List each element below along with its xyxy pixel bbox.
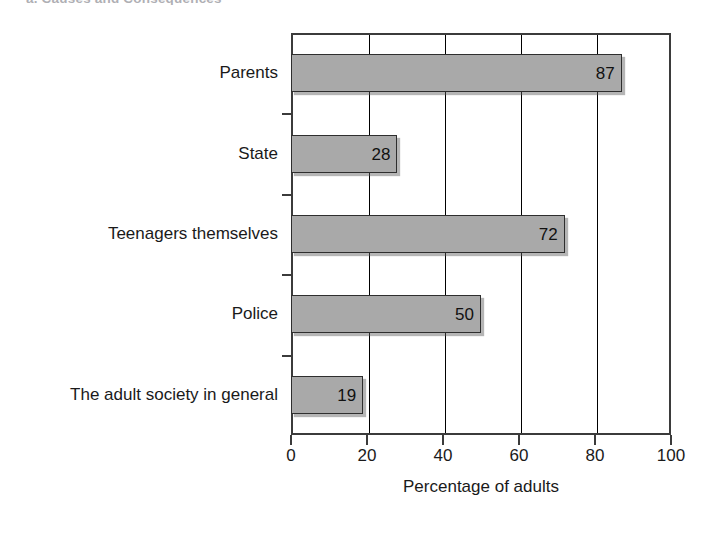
x-axis-title: Percentage of adults [291,477,671,497]
x-tick-label-100: 100 [641,446,701,466]
x-tick-0 [290,435,292,445]
bar-chart-figure: a. Causes and Consequences 020406080100 … [0,0,715,539]
x-tick-label-0: 0 [261,446,321,466]
x-tick-40 [442,435,444,445]
category-label-1: State [238,145,278,162]
y-tick-2 [282,194,291,196]
x-tick-60 [518,435,520,445]
bar-value-label-1: 28 [371,145,390,162]
category-label-0: Parents [219,64,278,81]
clipped-caption-text: a. Causes and Consequences [26,0,446,5]
x-tick-20 [366,435,368,445]
bar-value-label-2: 72 [539,226,558,243]
x-tick-label-40: 40 [413,446,473,466]
bar-value-label-0: 87 [596,65,615,82]
gridline-80 [597,35,598,433]
category-label-2: Teenagers themselves [108,225,278,242]
bar-1: 28 [291,135,397,173]
x-tick-100 [670,435,672,445]
x-tick-80 [594,435,596,445]
x-tick-label-20: 20 [337,446,397,466]
x-tick-label-80: 80 [565,446,625,466]
bar-0: 87 [291,54,622,92]
bar-4: 19 [291,376,363,414]
category-label-3: Police [232,305,278,322]
bar-value-label-4: 19 [337,386,356,403]
y-tick-4 [282,355,291,357]
y-tick-3 [282,274,291,276]
category-label-4: The adult society in general [70,386,278,403]
bar-value-label-3: 50 [455,306,474,323]
y-tick-1 [282,113,291,115]
x-tick-label-60: 60 [489,446,549,466]
bar-3: 50 [291,295,481,333]
bar-2: 72 [291,215,565,253]
